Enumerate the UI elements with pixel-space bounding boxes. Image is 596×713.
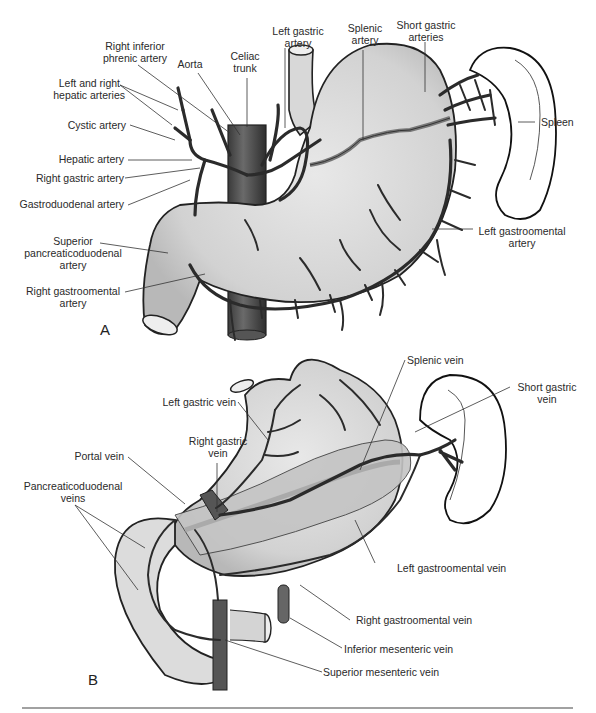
svg-text:Celiactrunk: Celiactrunk bbox=[230, 50, 259, 74]
stomach-blood-supply-diagram: Right inferiorphrenic artery Aorta Celia… bbox=[0, 0, 596, 713]
svg-text:Short gastricarteries: Short gastricarteries bbox=[397, 19, 456, 43]
label-short-gastric-vein: Short gastric bbox=[518, 381, 577, 393]
svg-text:Splenicartery: Splenicartery bbox=[348, 22, 382, 46]
label-left-gastric-vein: Left gastric vein bbox=[162, 396, 236, 408]
svg-text:Left gastroomentalartery: Left gastroomentalartery bbox=[479, 225, 566, 249]
label-portal-vein: Portal vein bbox=[74, 450, 124, 462]
svg-text:Short gastricvein: Short gastricvein bbox=[518, 381, 577, 405]
svg-text:Superiorpancreaticoduodenalart: Superiorpancreaticoduodenalartery bbox=[24, 235, 122, 271]
svg-text:Right gastroomentalartery: Right gastroomentalartery bbox=[26, 285, 120, 309]
label-right-gastroomental-artery: Right gastroomental bbox=[26, 285, 120, 297]
label-gastroduodenal-artery: Gastroduodenal artery bbox=[20, 198, 125, 210]
label-celiac-trunk: Celiac bbox=[230, 50, 259, 62]
label-cystic-artery: Cystic artery bbox=[68, 119, 127, 131]
label-inferior-mesenteric-vein: Inferior mesenteric vein bbox=[344, 643, 453, 655]
svg-text:Pancreaticoduodenalveins: Pancreaticoduodenalveins bbox=[24, 480, 123, 504]
label-right-inferior-phrenic-artery-1: Right inferior bbox=[105, 40, 165, 52]
label-left-gastroomental-vein: Left gastroomental vein bbox=[397, 562, 506, 574]
svg-text:Right inferiorphrenic artery: Right inferiorphrenic artery bbox=[103, 40, 168, 64]
label-short-gastric-arteries: Short gastric bbox=[397, 19, 456, 31]
panel-letter-b: B bbox=[88, 671, 98, 688]
panel-b: Splenic vein Short gastricvein Left gast… bbox=[24, 354, 577, 690]
label-left-gastric-artery: Left gastric bbox=[272, 25, 323, 37]
label-right-gastric-vein: Right gastric bbox=[189, 435, 247, 447]
panel-letter-a: A bbox=[100, 321, 110, 338]
label-right-gastric-artery: Right gastric artery bbox=[36, 172, 125, 184]
label-splenic-artery: Splenic bbox=[348, 22, 382, 34]
spleen-a bbox=[470, 48, 556, 219]
panel-a: Right inferiorphrenic artery Aorta Celia… bbox=[20, 19, 574, 340]
svg-text:Left gastricartery: Left gastricartery bbox=[272, 25, 323, 49]
label-left-gastroomental-artery: Left gastroomental bbox=[479, 225, 566, 237]
label-hepatic-artery: Hepatic artery bbox=[59, 153, 125, 165]
label-splenic-vein: Splenic vein bbox=[407, 354, 464, 366]
label-left-and-right-hepatic-arteries: Left and right bbox=[59, 77, 120, 89]
label-superior-mesenteric-vein: Superior mesenteric vein bbox=[323, 666, 439, 678]
label-superior-pancreaticoduodenal-artery: Superior bbox=[53, 235, 93, 247]
svg-text:Left and righthepatic arteries: Left and righthepatic arteries bbox=[53, 77, 125, 101]
label-aorta: Aorta bbox=[177, 58, 202, 70]
label-spleen: Spleen bbox=[541, 116, 574, 128]
label-right-gastroomental-vein: Right gastroomental vein bbox=[356, 614, 472, 626]
label-pancreaticoduodenal-veins: Pancreaticoduodenal bbox=[24, 480, 123, 492]
